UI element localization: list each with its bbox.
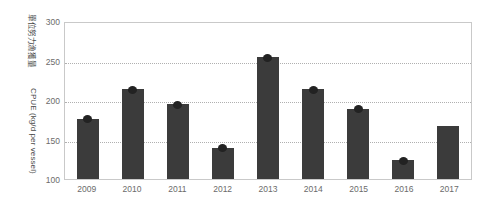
- data-point-marker-2013: [263, 54, 272, 62]
- bar-slot: [381, 23, 426, 179]
- x-tick-2012: 2012: [200, 182, 245, 202]
- bar-slot: [110, 23, 155, 179]
- x-tick-2011: 2011: [155, 182, 200, 202]
- data-point-marker-2012: [218, 144, 227, 152]
- y-tick-150: 150: [30, 136, 60, 146]
- x-tick-2015: 2015: [336, 182, 381, 202]
- cpue-bar-chart: 單位努力漁獲量 CPUE (kg/d per vessel) 300 250 2…: [0, 0, 498, 211]
- bar-2014[interactable]: [302, 89, 324, 179]
- bar-2011[interactable]: [167, 104, 189, 179]
- bar-2015[interactable]: [347, 109, 369, 179]
- x-axis-tick-labels: 200920102011201220132014201520162017: [64, 182, 472, 202]
- bar-slot: [155, 23, 200, 179]
- x-tick-2010: 2010: [109, 182, 154, 202]
- bar-slot: [426, 23, 471, 179]
- data-point-marker-2014: [309, 86, 318, 94]
- data-point-marker-2016: [399, 157, 408, 165]
- y-axis-tick-labels: 300 250 200 150 100: [28, 0, 60, 211]
- data-point-marker-2009: [83, 115, 92, 123]
- bar-slot: [65, 23, 110, 179]
- bar-2012[interactable]: [212, 148, 234, 179]
- x-tick-2016: 2016: [381, 182, 426, 202]
- x-tick-2009: 2009: [64, 182, 109, 202]
- y-tick-250: 250: [30, 57, 60, 67]
- y-tick-300: 300: [30, 17, 60, 27]
- data-point-marker-2011: [173, 101, 182, 109]
- y-tick-100: 100: [30, 175, 60, 185]
- bar-slot: [200, 23, 245, 179]
- bar-2010[interactable]: [122, 89, 144, 179]
- bar-slot: [336, 23, 381, 179]
- bar-2017[interactable]: [437, 126, 459, 179]
- bar-2013[interactable]: [257, 57, 279, 179]
- data-point-marker-2010: [128, 86, 137, 94]
- bar-slot: [291, 23, 336, 179]
- y-tick-200: 200: [30, 96, 60, 106]
- x-tick-2013: 2013: [245, 182, 290, 202]
- x-tick-2014: 2014: [291, 182, 336, 202]
- bar-series: [65, 23, 471, 179]
- data-point-marker-2015: [354, 105, 363, 113]
- bar-2016[interactable]: [392, 160, 414, 179]
- plot-area: [64, 22, 472, 180]
- x-tick-2017: 2017: [427, 182, 472, 202]
- bar-2009[interactable]: [77, 119, 99, 179]
- bar-slot: [245, 23, 290, 179]
